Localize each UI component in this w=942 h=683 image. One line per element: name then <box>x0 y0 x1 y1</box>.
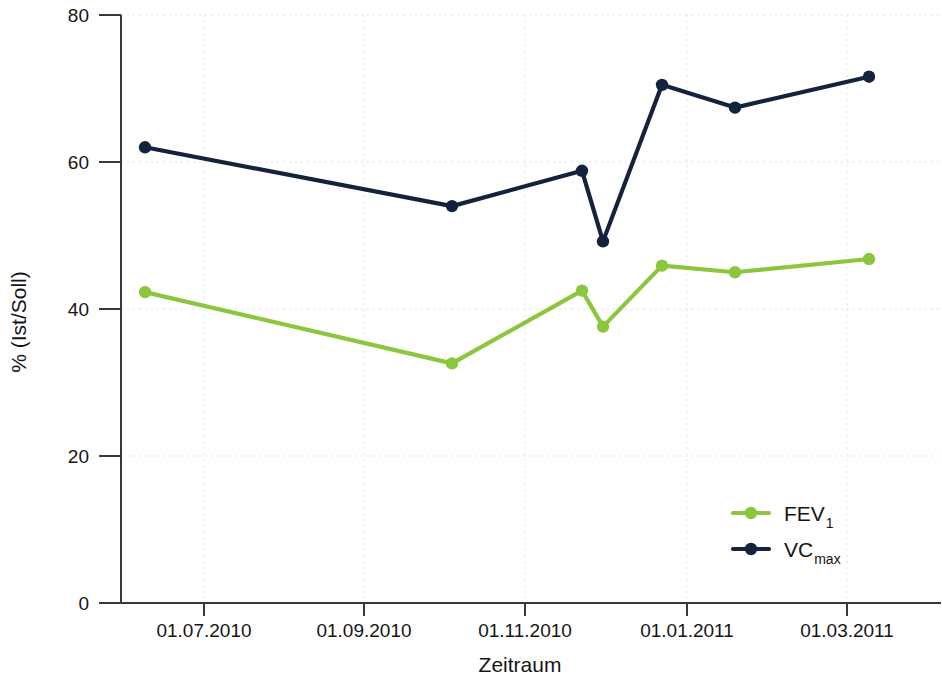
legend-label: VCmax <box>784 538 841 567</box>
data-point-VCmax <box>139 141 151 153</box>
x-tick-label: 01.03.2011 <box>800 620 894 641</box>
x-tick-label: 01.09.2010 <box>316 620 411 641</box>
y-axis-tick-labels: 020406080 <box>68 5 89 614</box>
data-point-VCmax <box>597 235 609 247</box>
x-tick-label: 01.01.2011 <box>640 620 734 641</box>
series-line-FEV1 <box>145 259 869 363</box>
data-point-VCmax <box>576 165 588 177</box>
data-point-VCmax <box>863 71 875 83</box>
y-tick-label: 80 <box>68 5 89 26</box>
y-tick-label: 40 <box>68 299 89 320</box>
y-axis-title: % (Ist/Soll) <box>7 271 30 373</box>
data-point-FEV1 <box>863 253 875 265</box>
chart-container: 020406080 01.07.201001.09.201001.11.2010… <box>0 0 942 683</box>
data-point-VCmax <box>729 101 741 113</box>
y-tick-label: 60 <box>68 152 89 173</box>
data-point-VCmax <box>656 79 668 91</box>
data-point-FEV1 <box>576 284 588 296</box>
legend-label: FEV1 <box>784 502 834 531</box>
x-axis-tick-labels: 01.07.201001.09.201001.11.201001.01.2011… <box>156 620 893 641</box>
data-point-VCmax <box>446 200 458 212</box>
legend-marker <box>745 543 757 555</box>
y-tick-label: 20 <box>68 446 89 467</box>
y-tick-label: 0 <box>78 593 89 614</box>
data-point-FEV1 <box>446 357 458 369</box>
data-point-FEV1 <box>139 286 151 298</box>
line-chart: 020406080 01.07.201001.09.201001.11.2010… <box>0 0 942 683</box>
legend-label-subscript: 1 <box>826 515 834 531</box>
data-point-FEV1 <box>656 259 668 271</box>
data-point-FEV1 <box>729 266 741 278</box>
legend-label-subscript: max <box>814 551 840 567</box>
x-tick-label: 01.11.2010 <box>478 620 572 641</box>
data-point-FEV1 <box>597 320 609 332</box>
x-axis-title: Zeitraum <box>479 653 562 676</box>
series-line-VCmax <box>145 77 869 242</box>
x-tick-label: 01.07.2010 <box>156 620 251 641</box>
legend-marker <box>745 507 757 519</box>
data-series-group <box>139 71 875 370</box>
chart-legend: FEV1VCmax <box>733 502 841 567</box>
